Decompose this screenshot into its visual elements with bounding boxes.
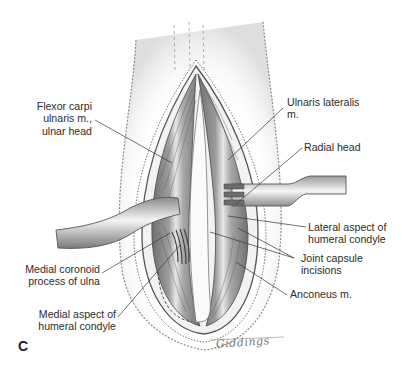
label-medial-aspect-humeral-condyle: Medial aspect of humeral condyle <box>22 308 116 333</box>
label-anconeus: Anconeus m. <box>290 288 352 300</box>
label-joint-capsule-incisions: Joint capsule incisions <box>301 252 363 277</box>
label-flexor-carpi-ulnaris: Flexor carpi ulnaris m., ulnar head <box>35 100 92 137</box>
label-lateral-aspect-humeral-condyle: Lateral aspect of humeral condyle <box>308 221 386 246</box>
label-ulnaris-lateralis: Ulnaris lateralis m. <box>287 96 359 121</box>
label-radial-head: Radial head <box>304 141 361 153</box>
label-medial-coronoid-process: Medial coronoid process of ulna <box>14 263 100 288</box>
panel-letter: C <box>18 338 28 354</box>
